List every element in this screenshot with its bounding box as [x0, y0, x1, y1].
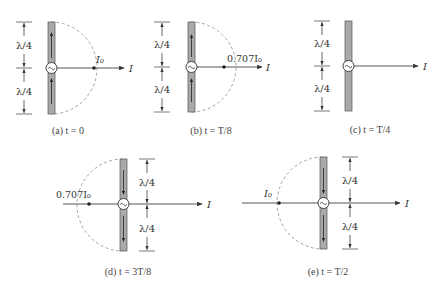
current-value-label: 0.707I₀	[56, 189, 91, 200]
dimension-label-upper: λ/4	[16, 40, 32, 51]
current-value-label: I₀	[263, 188, 272, 199]
panel-b: λ/4 λ/4 0.707I₀ I (b) t = T/8	[154, 22, 271, 137]
caption-a: (a) t = 0	[52, 125, 84, 137]
axis-label-I: I	[265, 62, 271, 73]
axis-label-I: I	[206, 199, 212, 210]
dimension-label-lower: λ/4	[139, 223, 155, 234]
dimension-label-lower: λ/4	[154, 84, 170, 95]
generator-source-icon	[186, 62, 197, 73]
generator-source-icon	[118, 199, 129, 210]
dimension-marker: λ/4 λ/4	[154, 22, 170, 112]
dimension-label-lower: λ/4	[16, 86, 32, 97]
axis-label-I: I	[128, 63, 134, 74]
dimension-marker: λ/4 λ/4	[139, 159, 156, 251]
current-value-label: 0.707I₀	[227, 53, 262, 64]
panel-d: 0.707I₀ I λ/4 λ/4 (d) t = 3T/8	[56, 159, 212, 278]
caption-c: (c) t = T/4	[350, 124, 391, 136]
panel-e: I₀ I λ/4 λ/4 (e) t = T/2	[242, 157, 410, 278]
generator-source-icon	[343, 61, 354, 72]
panel-a: λ/4 λ/4 I₀ I (a) t = 0	[16, 22, 134, 137]
dimension-marker: λ/4 λ/4	[16, 22, 32, 114]
current-value-point	[222, 65, 226, 69]
dimension-label-upper: λ/4	[139, 177, 155, 188]
dimension-label-upper: λ/4	[154, 39, 170, 50]
panel-c: λ/4 λ/4 I (c) t = T/4	[314, 21, 428, 136]
current-envelope-dashed	[77, 159, 123, 251]
axis-label-I: I	[422, 61, 428, 72]
dimension-label-upper: λ/4	[342, 175, 358, 186]
caption-d: (d) t = 3T/8	[105, 266, 151, 278]
generator-source-icon	[318, 198, 329, 209]
axis-label-I: I	[404, 198, 410, 209]
dipole-current-distribution-figure: λ/4 λ/4 I₀ I (a) t = 0 λ/4 λ/4	[0, 0, 436, 289]
generator-source-icon	[46, 63, 57, 74]
current-value-point	[277, 201, 281, 205]
dimension-label-lower: λ/4	[314, 83, 330, 94]
caption-e: (e) t = T/2	[308, 266, 349, 278]
caption-b: (b) t = T/8	[190, 125, 231, 137]
dimension-label-lower: λ/4	[342, 221, 358, 232]
dimension-marker: λ/4 λ/4	[314, 21, 330, 111]
current-value-label: I₀	[95, 54, 104, 65]
current-value-point	[92, 66, 96, 70]
dimension-label-upper: λ/4	[314, 38, 330, 49]
current-value-point	[87, 202, 91, 206]
